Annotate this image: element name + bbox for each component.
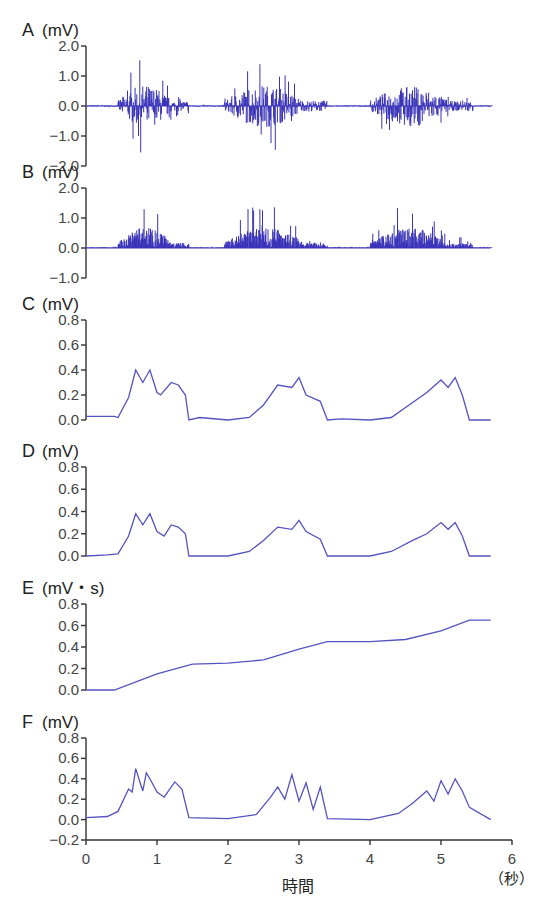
x-axis [86,840,512,845]
y-tick-label: −1.0 [49,127,79,144]
x-tick-label: 5 [437,850,445,867]
y-tick-label: −0.2 [49,831,79,848]
x-tick-label: 0 [82,850,90,867]
y-tick-label: 2.0 [58,37,79,54]
y-tick-label: 0.8 [58,595,79,612]
y-tick-label: 0.0 [58,681,79,698]
panel-F [81,738,491,840]
y-tick-label: 0.6 [58,480,79,497]
x-tick-label: 3 [295,850,303,867]
panel-C [81,320,491,420]
panel-label: F [22,712,33,732]
signal-trace [86,514,491,556]
x-tick-label: 4 [366,850,374,867]
panel-E [81,604,491,690]
y-tick-label: 1.0 [58,67,79,84]
y-tick-label: 0.8 [58,311,79,328]
y-tick-label: −1.0 [49,269,79,286]
x-tick-label: 1 [153,850,161,867]
y-tick-label: 0.0 [58,547,79,564]
panel-label: C [22,294,35,314]
y-tick-label: 0.0 [58,97,79,114]
y-tick-label: 1.0 [58,209,79,226]
y-tick-label: 0.4 [58,503,79,520]
x-tick-label: 2 [224,850,232,867]
signal-trace [86,769,491,820]
x-tick-label: 6 [508,850,516,867]
y-tick-label: 0.0 [58,411,79,428]
y-tick-label: 0.2 [58,386,79,403]
y-tick-label: 0.2 [58,525,79,542]
y-tick-label: 0.6 [58,617,79,634]
panel-label: E [22,578,34,598]
panel-D [81,467,491,556]
y-tick-label: 0.2 [58,790,79,807]
signal-trace [86,370,491,420]
y-tick-label: 0.6 [58,336,79,353]
y-tick-label: 0.6 [58,749,79,766]
x-axis-label: 時間 [282,878,314,895]
y-tick-label: 0.4 [58,361,79,378]
y-tick-label: 2.0 [58,179,79,196]
y-tick-label: 0.2 [58,660,79,677]
y-tick-label: 0.0 [58,239,79,256]
panel-label: A [22,20,34,40]
emg-trace [87,207,492,248]
panel-label: D [22,441,35,461]
panel-A [81,46,492,166]
y-tick-label: 0.4 [58,638,79,655]
signal-trace [86,620,491,690]
y-tick-label: 0.8 [58,458,79,475]
panel-label: B [22,162,34,182]
emg-figure: A(mV)2.01.00.0−1.0−2.0B(mV)2.01.00.0−1.0… [0,0,539,920]
panel-B [81,188,492,278]
y-tick-label: 0.4 [58,770,79,787]
x-axis-unit: （秒） [489,870,534,887]
y-tick-label: 0.8 [58,729,79,746]
y-tick-label: 0.0 [58,811,79,828]
